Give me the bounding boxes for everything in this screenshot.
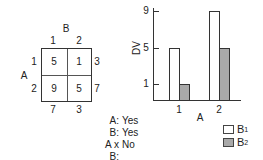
bar-a1-b2 (179, 84, 190, 100)
effect-value: No (119, 139, 135, 160)
row-label-1: 1 (31, 57, 37, 67)
x-tick-label-2: 2 (216, 105, 222, 115)
legend-item-b1: B1 (223, 123, 248, 135)
col-marginal-1: 7 (50, 105, 56, 115)
y-axis-label: DV (132, 41, 142, 55)
col-factor-label: B (63, 24, 70, 34)
x-axis-label: A (197, 113, 204, 123)
legend-swatch-gray (223, 138, 234, 147)
y-tick-1 (153, 84, 159, 85)
col-label-2: 2 (76, 36, 82, 46)
legend-subscript: 1 (244, 126, 248, 133)
effect-key: A: (93, 115, 119, 127)
effects-summary: A: Yes B: Yes A x B: No (93, 115, 138, 160)
cell-a1-b1: 5 (51, 57, 57, 67)
y-tick-label-5: 5 (143, 43, 149, 53)
effect-value: Yes (119, 127, 138, 139)
cell-a1-b2: 1 (76, 57, 82, 67)
effect-key: A x B: (93, 139, 119, 160)
legend-swatch-white (223, 125, 234, 134)
cell-a2-b1: 9 (51, 84, 57, 94)
legend-item-b2: B2 (223, 136, 248, 148)
row-marginal-2: 7 (94, 84, 100, 94)
cell-a2-b2: 5 (76, 84, 82, 94)
row-label-2: 2 (31, 84, 37, 94)
effect-row-a: A: Yes (93, 115, 138, 127)
y-tick-label-9: 9 (143, 6, 149, 16)
table-grid (41, 48, 92, 102)
y-axis (153, 8, 154, 100)
effect-key: B: (93, 127, 119, 139)
effect-row-axb: A x B: No (93, 139, 138, 160)
col-label-1: 1 (50, 36, 56, 46)
y-tick-9 (153, 11, 159, 12)
legend-subscript: 2 (244, 139, 248, 146)
row-factor-label: A (21, 71, 28, 81)
effect-value: Yes (119, 115, 138, 127)
legend-label: B (237, 136, 244, 148)
x-tick-label-1: 1 (176, 105, 182, 115)
x-axis (153, 100, 241, 101)
col-marginal-2: 3 (76, 105, 82, 115)
legend-label: B (237, 123, 244, 135)
grid-divider-horizontal (42, 75, 91, 76)
bar-a2-b2 (219, 48, 230, 100)
effect-row-b: B: Yes (93, 127, 138, 139)
y-tick-5 (153, 48, 159, 49)
row-marginal-1: 3 (94, 57, 100, 67)
y-tick-label-1: 1 (143, 79, 149, 89)
